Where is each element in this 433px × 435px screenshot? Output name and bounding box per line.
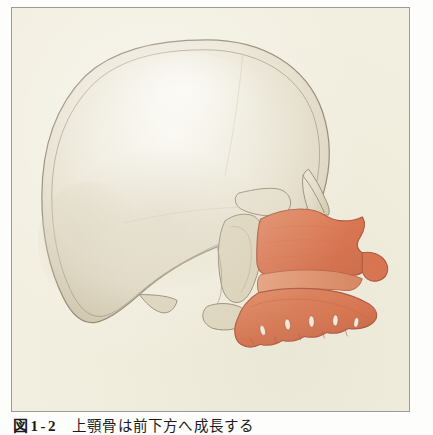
figure-plate [11,7,410,412]
figure-page: 図1-2上顎骨は前下方へ成長する [0,0,433,435]
paper-tone-overlay [12,8,409,411]
figure-caption-text: 上顎骨は前下方へ成長する [72,418,254,434]
figure-number-label: 図1-2 [13,418,58,434]
figure-caption: 図1-2上顎骨は前下方へ成長する [13,417,433,435]
skull-illustration [12,8,409,411]
